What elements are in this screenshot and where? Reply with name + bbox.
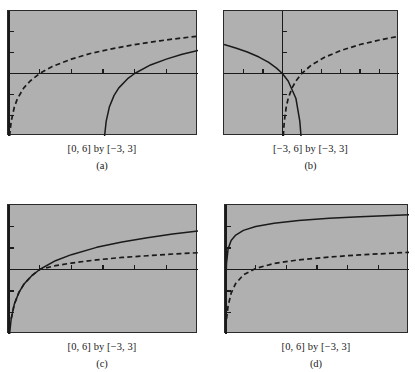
curve-dashed-log-base10-curve	[11, 253, 198, 319]
plot-svg-c	[8, 205, 198, 334]
panel-d-sublabel: (d)	[224, 358, 408, 369]
curve-dashed-log-curve	[283, 36, 399, 136]
plot-frame-a	[7, 10, 197, 135]
panel-c-caption: [0, 6] by [−3, 3]	[7, 341, 197, 352]
panel-b-caption: [−3, 6] by [−3, 3]	[223, 143, 398, 154]
curve-solid-reflected-log-curve	[224, 45, 302, 136]
plot-frame-d	[224, 204, 408, 333]
panel-c-sublabel: (c)	[7, 358, 197, 369]
plot-frame-b	[223, 10, 398, 135]
figure-four-log-graph-panels: [0, 6] by [−3, 3] (a) [−3, 6] by [−3, 3]…	[0, 0, 415, 372]
plot-frame-c	[7, 204, 197, 333]
panel-d-caption: [0, 6] by [−3, 3]	[224, 341, 408, 352]
plot-svg-b	[224, 11, 399, 136]
panel-a-sublabel: (a)	[7, 160, 197, 171]
panel-a-caption: [0, 6] by [−3, 3]	[7, 143, 197, 154]
plot-svg-d	[225, 205, 409, 334]
curve-solid-log-curve	[10, 231, 198, 334]
panel-b-sublabel: (b)	[223, 160, 398, 171]
plot-svg-a	[8, 11, 198, 136]
curve-dashed-log-curve	[10, 36, 198, 136]
curve-dashed-lower-log-curve	[227, 252, 409, 319]
curve-solid-log-curve	[105, 51, 198, 136]
curve-solid-steep-log-curve	[226, 215, 409, 291]
